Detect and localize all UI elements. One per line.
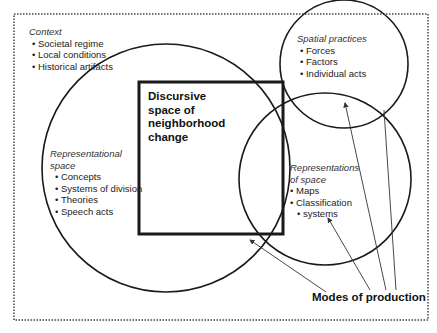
arrow-to-representational-space <box>250 240 326 292</box>
spatial-practices-item: Forces <box>300 45 367 57</box>
discursive-line: space of <box>148 104 225 118</box>
discursive-line: neighborhood <box>148 117 225 131</box>
representations-of-space-title-1: Representations <box>290 162 359 174</box>
representational-space-label: Representational space Concepts Systems … <box>50 148 142 217</box>
spatial-practices-label: Spatial practices Forces Factors Individ… <box>297 33 367 79</box>
discursive-space-title: Discursive space of neighborhood change <box>148 90 225 144</box>
arrow-to-representations-of-space <box>328 218 370 290</box>
representational-space-item: Theories <box>55 194 142 206</box>
context-label: Context Societal regime Local conditions… <box>29 26 113 72</box>
arrow-to-spatial-practices-2 <box>384 110 396 290</box>
representational-space-item: Speech acts <box>55 206 142 218</box>
context-item: Local conditions <box>32 49 113 61</box>
modes-of-production-label: Modes of production <box>312 291 426 303</box>
context-item: Historical artifacts <box>32 61 113 73</box>
spatial-practices-title: Spatial practices <box>297 33 367 45</box>
spatial-practices-item: Individual acts <box>300 68 367 80</box>
discursive-line: Discursive <box>148 90 225 104</box>
representations-of-space-label: Representations of space Maps Classifica… <box>290 162 359 220</box>
representations-of-space-item-continued: systems <box>290 208 359 220</box>
context-item: Societal regime <box>32 38 113 50</box>
spatial-practices-item: Factors <box>300 56 367 68</box>
representational-space-item: Systems of division <box>55 183 142 195</box>
discursive-line: change <box>148 131 225 145</box>
representations-of-space-title-2: of space <box>290 174 359 186</box>
representations-of-space-item: Classification <box>290 197 359 209</box>
representational-space-title-1: Representational <box>50 148 142 160</box>
representational-space-item: Concepts <box>55 171 142 183</box>
representational-space-title-2: space <box>50 160 142 172</box>
context-title: Context <box>29 26 113 38</box>
representations-of-space-item: Maps <box>290 185 359 197</box>
